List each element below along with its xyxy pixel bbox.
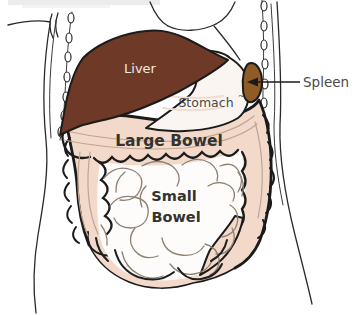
spleen-label: Spleen — [303, 74, 349, 90]
abdominal-organs-diagram: Liver Stomach ~ Spleen Large Bowel Small… — [0, 0, 354, 315]
small-bowel-label-line1: Small — [151, 188, 196, 204]
large-bowel-label: Large Bowel — [115, 132, 223, 150]
diagram-canvas: Liver Stomach ~ Spleen Large Bowel Small… — [0, 0, 354, 315]
liver-label: Liver — [124, 61, 157, 76]
stomach-label: Stomach — [178, 95, 233, 110]
scan-artifact-bar-2 — [22, 5, 110, 8]
spleen-arrow — [247, 78, 300, 87]
scan-artifact-bar — [8, 0, 160, 5]
small-bowel-label-line2: Bowel — [151, 209, 200, 225]
stomach-label-mark: ~ — [238, 92, 245, 101]
